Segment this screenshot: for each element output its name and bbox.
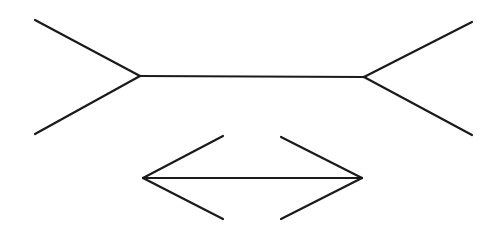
fin-line <box>281 137 362 178</box>
fin-line <box>35 76 140 134</box>
fin-line <box>364 77 472 135</box>
shaft-line <box>140 76 364 77</box>
figure-outward-fins <box>35 20 472 135</box>
fin-line <box>364 22 472 77</box>
fin-line <box>35 20 140 76</box>
muller-lyer-diagram <box>0 0 499 235</box>
fin-line <box>143 136 223 178</box>
fin-line <box>281 178 362 219</box>
figure-inward-arrows <box>143 136 362 219</box>
fin-line <box>143 178 223 219</box>
